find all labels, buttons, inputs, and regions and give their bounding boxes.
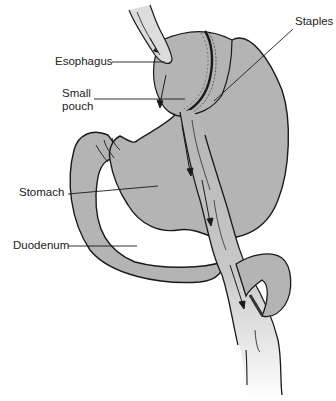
label-staples: Staples [295, 15, 333, 28]
label-duodenum: Duodenum [13, 239, 69, 252]
label-small-pouch-line1: Small [62, 87, 91, 100]
gastric-bypass-diagram [0, 0, 336, 401]
esophagus-shape [129, 5, 172, 63]
label-stomach: Stomach [19, 186, 64, 199]
label-esophagus: Esophagus [55, 55, 113, 68]
label-small-pouch-line2: pouch [62, 100, 93, 113]
